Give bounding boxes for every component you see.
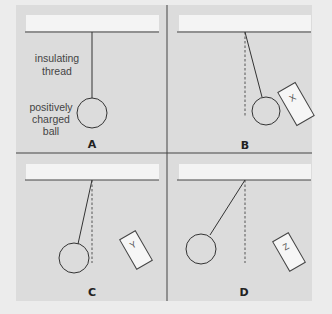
ceiling-d — [179, 164, 311, 180]
ball-label-line3: ball — [43, 125, 59, 137]
panel-label-c: C — [88, 286, 96, 299]
panel-label-d: D — [239, 286, 248, 299]
panel-label-b: B — [241, 139, 249, 152]
charged-ball-diagram: insulating thread positively charged bal… — [0, 0, 332, 314]
ceiling-b — [179, 15, 311, 31]
thread-label-line2: thread — [42, 65, 72, 77]
panel-label-a: A — [88, 138, 97, 151]
thread-label-line1: insulating — [35, 52, 80, 64]
diagram-canvas: insulating thread positively charged bal… — [0, 0, 332, 314]
ball-label-line2: charged — [32, 113, 70, 125]
ceiling-a — [26, 15, 159, 31]
ball-label-line1: positively — [29, 101, 73, 113]
ceiling-c — [26, 164, 159, 180]
